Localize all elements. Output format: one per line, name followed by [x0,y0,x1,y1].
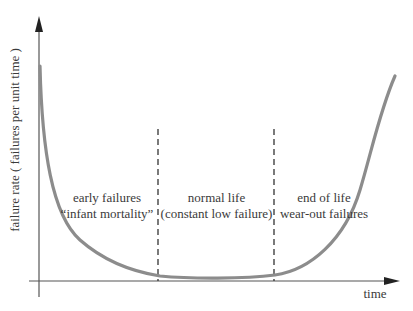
region-normal-title: normal life [160,190,273,206]
x-axis-arrow-icon [384,277,400,285]
x-axis-label: time [355,286,395,302]
region-early-subtitle: “infant mortality” [52,206,162,222]
y-axis-arrow-icon [35,16,43,32]
region-early-title: early failures [52,190,162,206]
y-axis-label: failure rate ( failures per unit time ) [2,20,28,260]
region-early-failures: early failures “infant mortality” [52,190,162,222]
bathtub-curve [40,66,395,278]
region-end-subtitle: wear-out failures [276,206,372,222]
y-axis-label-text: failure rate ( failures per unit time ) [7,48,23,232]
region-end-title: end of life [276,190,372,206]
region-normal-life: normal life (constant low failure) [160,190,273,222]
chart-canvas [0,0,413,311]
region-normal-subtitle: (constant low failure) [160,206,273,222]
region-end-of-life: end of life wear-out failures [276,190,372,222]
